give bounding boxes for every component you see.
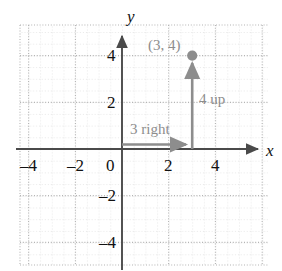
horizontal-step-label: 3 right [130,122,170,137]
coordinate-plane-figure: x y –4 –2 0 2 4 4 2 –2 –4 (3, 4) 3 right… [0,0,282,271]
y-tick-label-neg4: –4 [99,234,116,251]
x-tick-label-neg4: –4 [20,157,37,174]
y-tick-label-2: 2 [107,94,116,111]
y-axis-label: y [127,8,135,25]
y-tick-label-neg2: –2 [99,187,116,204]
x-tick-label-neg2: –2 [67,157,84,174]
vertical-step-label: 4 up [199,92,225,107]
data-point-3-4 [187,51,197,61]
x-axis-label: x [266,142,274,159]
point-coordinate-label: (3, 4) [148,38,181,53]
x-tick-label-4: 4 [211,157,220,174]
x-tick-label-2: 2 [164,157,173,174]
y-tick-label-4: 4 [107,47,116,64]
x-tick-label-0: 0 [106,157,115,174]
